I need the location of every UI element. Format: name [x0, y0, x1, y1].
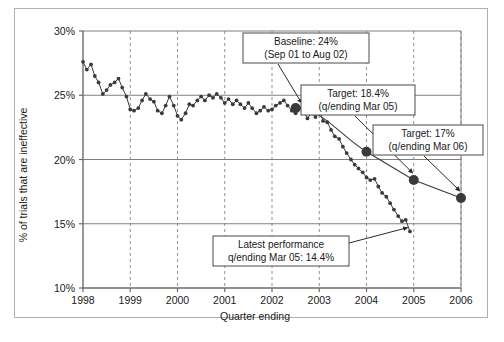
- data-point-monthly: [219, 96, 223, 100]
- x-tick-label: 2005: [402, 294, 426, 306]
- data-point-target: [409, 175, 419, 185]
- data-point-monthly: [207, 93, 211, 97]
- x-tick-label: 2003: [308, 294, 332, 306]
- data-point-monthly: [329, 128, 333, 132]
- data-point-monthly: [152, 100, 156, 104]
- x-tick-label: 1999: [119, 294, 143, 306]
- data-point-monthly: [235, 98, 239, 102]
- leader-baseline: [278, 64, 302, 103]
- data-point-monthly: [148, 97, 152, 101]
- y-tick-label: 30%: [54, 25, 75, 37]
- data-point-monthly: [125, 95, 129, 99]
- data-point-monthly: [400, 219, 404, 223]
- data-point-monthly: [187, 102, 191, 106]
- data-point-monthly: [349, 158, 353, 162]
- data-point-monthly: [132, 109, 136, 113]
- data-point-monthly: [85, 68, 89, 72]
- data-point-monthly: [89, 63, 93, 67]
- data-point-monthly: [164, 104, 168, 108]
- data-point-monthly: [199, 95, 203, 99]
- data-point-monthly: [246, 101, 250, 105]
- data-point-monthly: [97, 81, 101, 85]
- data-point-monthly: [176, 114, 180, 118]
- data-point-monthly: [144, 92, 148, 96]
- data-point-monthly: [101, 92, 105, 96]
- data-point-monthly: [306, 116, 310, 120]
- data-point-monthly: [258, 109, 262, 113]
- x-tick-label: 2001: [213, 294, 237, 306]
- baseline-callout-line1: Baseline: 24%: [274, 36, 338, 47]
- chart-figure: 10%15%20%25%30% 199819992000200120022003…: [0, 0, 504, 342]
- data-point-monthly: [357, 167, 361, 171]
- data-point-monthly: [160, 111, 164, 115]
- data-point-monthly: [361, 170, 365, 174]
- target-mar06-callout: Target: 17% (q/ending Mar 06): [373, 125, 483, 155]
- x-tick-label: 2002: [260, 294, 284, 306]
- data-point-monthly: [136, 106, 140, 110]
- target-mar05-callout-line2: (q/ending Mar 05): [319, 101, 398, 112]
- data-point-monthly: [172, 104, 176, 108]
- target-mar05-callout-line1: Target: 18.4%: [327, 88, 389, 99]
- data-point-monthly: [333, 134, 337, 138]
- data-point-monthly: [227, 97, 231, 101]
- x-tick-label: 2000: [166, 294, 190, 306]
- data-point-monthly: [286, 104, 290, 108]
- data-point-target: [291, 103, 301, 113]
- x-axis-ticks: 199819992000200120022003200420052006: [71, 288, 473, 306]
- data-point-monthly: [203, 98, 207, 102]
- data-point-monthly: [274, 104, 278, 108]
- data-point-monthly: [140, 98, 144, 102]
- data-point-monthly: [388, 201, 392, 205]
- data-point-monthly: [255, 111, 259, 115]
- data-point-monthly: [195, 98, 199, 102]
- data-point-monthly: [345, 151, 349, 155]
- data-point-monthly: [238, 102, 242, 106]
- latest-performance-callout: Latest performance q/ending Mar 05: 14.4…: [213, 236, 349, 266]
- baseline-callout: Baseline: 24% (Sep 01 to Aug 02): [243, 33, 369, 63]
- data-point-target: [362, 147, 372, 157]
- data-point-monthly: [337, 137, 341, 141]
- baseline-callout-line2: (Sep 01 to Aug 02): [264, 49, 347, 60]
- data-point-monthly: [380, 191, 384, 195]
- y-tick-label: 10%: [54, 282, 75, 294]
- data-point-monthly: [384, 195, 388, 199]
- data-point-monthly: [243, 106, 247, 110]
- y-tick-label: 25%: [54, 89, 75, 101]
- data-point-monthly: [120, 86, 124, 90]
- latest-performance-callout-line1: Latest performance: [238, 239, 325, 250]
- data-point-monthly: [215, 92, 219, 96]
- data-point-monthly: [266, 109, 270, 113]
- data-point-monthly: [404, 218, 408, 222]
- leader-latest: [349, 228, 408, 243]
- x-tick-label: 1998: [71, 294, 95, 306]
- data-point-monthly: [93, 74, 97, 78]
- data-point-monthly: [278, 101, 282, 105]
- target-mar06-callout-line1: Target: 17%: [401, 128, 454, 139]
- data-point-monthly: [408, 230, 412, 234]
- data-point-monthly: [314, 115, 318, 119]
- line-chart: 10%15%20%25%30% 199819992000200120022003…: [0, 0, 504, 342]
- x-tick-label: 2006: [449, 294, 473, 306]
- data-point-target: [456, 193, 466, 203]
- x-axis-title: Quarter ending: [220, 310, 290, 322]
- data-point-monthly: [117, 77, 121, 81]
- target-mar05-callout: Target: 18.4% (q/ending Mar 05): [301, 85, 415, 115]
- data-point-monthly: [105, 88, 109, 92]
- data-point-monthly: [250, 106, 254, 110]
- data-point-monthly: [262, 105, 266, 109]
- data-point-monthly: [231, 102, 235, 106]
- data-point-monthly: [376, 185, 380, 189]
- y-axis-title: % of trials that are ineffective: [17, 108, 29, 243]
- y-tick-label: 20%: [54, 154, 75, 166]
- data-point-monthly: [392, 208, 396, 212]
- data-point-monthly: [184, 111, 188, 115]
- data-point-monthly: [211, 96, 215, 100]
- data-point-monthly: [341, 145, 345, 149]
- x-tick-label: 2004: [355, 294, 379, 306]
- data-point-monthly: [368, 178, 372, 182]
- data-point-monthly: [223, 101, 227, 105]
- data-point-monthly: [179, 118, 183, 122]
- y-axis-ticks: 10%15%20%25%30%: [54, 25, 83, 294]
- data-point-monthly: [365, 176, 369, 180]
- data-point-monthly: [109, 83, 113, 87]
